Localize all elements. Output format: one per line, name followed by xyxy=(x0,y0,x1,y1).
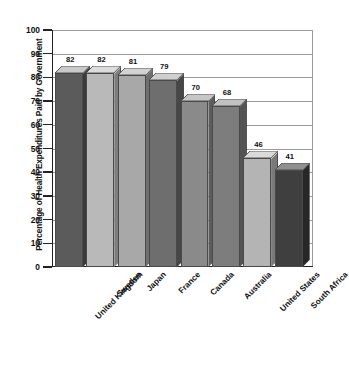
bar-top-face xyxy=(149,73,184,81)
y-axis-tick: 60 xyxy=(31,120,52,130)
bar-front-face xyxy=(86,73,114,267)
y-axis-tick-mark xyxy=(43,195,52,196)
bar-top-face xyxy=(275,163,310,171)
bar-value-label: 70 xyxy=(191,83,199,92)
bar-group[interactable]: 81 xyxy=(118,30,146,267)
bar-value-label: 82 xyxy=(66,55,74,64)
bar[interactable] xyxy=(212,106,240,267)
y-axis-tick-label: 100 xyxy=(26,25,43,35)
y-axis-tick-label: 80 xyxy=(31,72,43,82)
y-axis-tick: 0 xyxy=(35,262,52,272)
y-axis-tick-mark xyxy=(43,53,52,54)
bar[interactable] xyxy=(181,101,209,267)
bar-top-face xyxy=(118,68,153,76)
x-axis-labels: United KingdomSwedenJapanFranceCanadaAus… xyxy=(52,270,313,366)
plot-area: 1009080706050403020100 8282817970684641 xyxy=(52,30,313,267)
bar-group[interactable]: 79 xyxy=(149,30,177,267)
y-axis-tick: 30 xyxy=(31,191,52,201)
bar-group[interactable]: 46 xyxy=(243,30,271,267)
bar-front-face xyxy=(181,101,209,267)
bar-top-face xyxy=(181,94,216,102)
y-axis-tick: 70 xyxy=(31,96,52,106)
bar-top-face xyxy=(243,151,278,159)
y-axis-tick-mark xyxy=(43,29,52,30)
bar-front-face xyxy=(149,80,177,267)
y-axis-tick-mark xyxy=(43,100,52,101)
bar-group[interactable]: 68 xyxy=(212,30,240,267)
bar-group[interactable]: 82 xyxy=(55,30,83,267)
bar-front-face xyxy=(118,75,146,267)
x-axis-label: Japan xyxy=(145,270,168,293)
bar-front-face xyxy=(212,106,240,267)
y-axis-tick: 100 xyxy=(26,25,52,35)
y-axis-tick-mark xyxy=(43,171,52,172)
bar-value-label: 41 xyxy=(286,152,294,161)
bar-group[interactable]: 41 xyxy=(275,30,303,267)
y-axis-tick-label: 20 xyxy=(31,215,43,225)
bar-value-label: 68 xyxy=(223,88,231,97)
bar-value-label: 46 xyxy=(254,140,262,149)
y-axis-tick-label: 70 xyxy=(31,96,43,106)
y-axis-tick-label: 40 xyxy=(31,167,43,177)
bar-top-face xyxy=(212,99,247,107)
bar-side-face xyxy=(303,164,310,267)
bar[interactable] xyxy=(275,170,303,267)
bar-value-label: 82 xyxy=(97,55,105,64)
y-axis-tick-mark xyxy=(43,148,52,149)
bar-series: 8282817970684641 xyxy=(53,30,313,267)
x-axis-label: Canada xyxy=(209,270,236,297)
y-axis-tick: 80 xyxy=(31,72,52,82)
y-axis-tick-label: 60 xyxy=(31,120,43,130)
y-axis-tick: 40 xyxy=(31,167,52,177)
y-axis-tick-label: 0 xyxy=(35,262,43,272)
bar-front-face xyxy=(55,73,83,267)
bar-value-label: 81 xyxy=(129,57,137,66)
y-axis-tick: 50 xyxy=(31,144,52,154)
y-axis-tick: 10 xyxy=(31,238,52,248)
bar[interactable] xyxy=(243,158,271,267)
x-axis-label: France xyxy=(177,270,202,295)
bar[interactable] xyxy=(55,73,83,267)
y-axis-tick-label: 10 xyxy=(31,238,43,248)
y-axis-tick-mark xyxy=(43,124,52,125)
y-axis-tick-label: 30 xyxy=(31,191,43,201)
bar-group[interactable]: 82 xyxy=(86,30,114,267)
y-axis-tick-label: 50 xyxy=(31,144,43,154)
y-axis-tick-mark xyxy=(43,219,52,220)
bar-front-face xyxy=(275,170,303,267)
bar[interactable] xyxy=(149,80,177,267)
y-axis-tick-label: 90 xyxy=(31,49,43,59)
x-axis-label: Sweden xyxy=(115,270,143,298)
bar-value-label: 79 xyxy=(160,62,168,71)
bar-group[interactable]: 70 xyxy=(181,30,209,267)
bar[interactable] xyxy=(86,73,114,267)
y-axis-tick: 90 xyxy=(31,49,52,59)
y-axis-tick-mark xyxy=(43,266,52,267)
bar-front-face xyxy=(243,158,271,267)
bar-top-face xyxy=(86,66,121,74)
y-axis-tick: 20 xyxy=(31,215,52,225)
y-axis-tick-mark xyxy=(43,243,52,244)
bar[interactable] xyxy=(118,75,146,267)
y-axis-tick-mark xyxy=(43,77,52,78)
bar-top-face xyxy=(55,66,90,74)
x-axis-label: Australia xyxy=(242,270,273,301)
